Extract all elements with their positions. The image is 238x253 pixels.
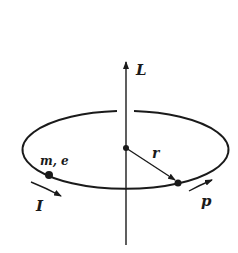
momentum-arrow [189,180,212,191]
radius-label: r [152,145,161,161]
particle-dot-right [175,180,182,187]
mass-charge-label: m, e [40,154,69,168]
particle-dot-left [45,171,53,179]
radius-vector [126,148,175,180]
momentum-label: p [201,192,212,210]
orbit-diagram: L r m, e I p [0,0,238,253]
current-label: I [35,197,44,215]
current-arrow [31,182,61,196]
angular-momentum-label: L [135,61,147,79]
